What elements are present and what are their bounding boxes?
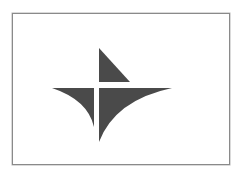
logo-top-triangle xyxy=(99,48,130,82)
compass-star-logo-icon xyxy=(0,0,245,174)
logo-right-wing xyxy=(99,88,172,142)
logo-left-wing xyxy=(52,88,94,127)
